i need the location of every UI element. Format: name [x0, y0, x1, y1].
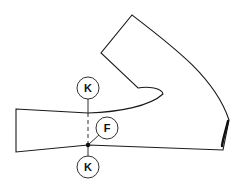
pattern-diagram: K F K [0, 0, 243, 192]
f-marker: F [96, 117, 118, 139]
f-leader [88, 134, 100, 145]
k-bottom-marker: K [77, 156, 99, 178]
k-top-marker: K [77, 77, 99, 99]
pattern-outline [16, 15, 229, 152]
k-bottom-label: K [84, 161, 92, 173]
k-top-label: K [84, 82, 92, 94]
f-label: F [104, 122, 111, 134]
f-point-dot [86, 143, 90, 147]
